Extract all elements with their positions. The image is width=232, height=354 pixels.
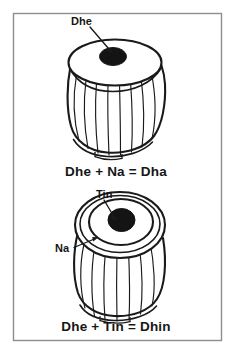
tabla-bol-diagram: Dhe Dhe + Na = Dha bbox=[0, 0, 232, 354]
label-tin: Tin bbox=[96, 188, 113, 200]
label-dhe: Dhe bbox=[71, 15, 92, 27]
lower-drum-syahi bbox=[108, 209, 135, 232]
figure-root: Dhe Dhe + Na = Dha bbox=[0, 0, 232, 354]
label-na: Na bbox=[55, 242, 70, 254]
caption-lower: Dhe + Tin = Dhin bbox=[61, 319, 170, 334]
caption-upper: Dhe + Na = Dha bbox=[65, 164, 167, 179]
upper-drum-syahi bbox=[100, 48, 127, 66]
